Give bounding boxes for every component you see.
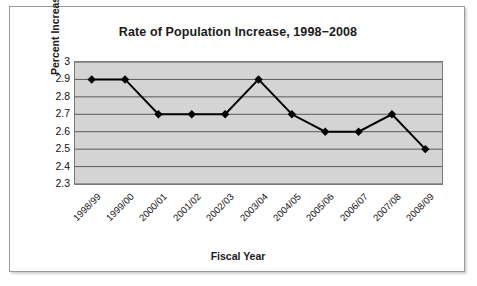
y-tick-label: 2.9 bbox=[30, 72, 70, 84]
chart-frame: Rate of Population Increase, 1998−2008 P… bbox=[9, 6, 465, 272]
y-tick-label: 3 bbox=[30, 55, 70, 67]
data-point-marker bbox=[87, 75, 95, 83]
chart-title: Rate of Population Increase, 1998−2008 bbox=[10, 25, 466, 39]
data-point-marker bbox=[188, 110, 196, 118]
y-tick-label: 2.3 bbox=[30, 177, 70, 189]
x-axis-title: Fiscal Year bbox=[10, 250, 466, 262]
y-tick-label: 2.7 bbox=[30, 107, 70, 119]
y-tick-label: 2.8 bbox=[30, 90, 70, 102]
x-axis-tick-labels: 1998/991999/002000/012001/022002/032003/… bbox=[74, 187, 443, 247]
y-tick-label: 2.6 bbox=[30, 125, 70, 137]
data-point-marker bbox=[321, 128, 329, 136]
data-point-marker bbox=[354, 128, 362, 136]
plot-area bbox=[74, 61, 443, 185]
y-tick-label: 2.4 bbox=[30, 160, 70, 172]
line-series-svg bbox=[75, 62, 442, 184]
y-axis-tick-labels: 32.92.82.72.62.52.42.3 bbox=[26, 61, 70, 185]
y-tick-label: 2.5 bbox=[30, 142, 70, 154]
